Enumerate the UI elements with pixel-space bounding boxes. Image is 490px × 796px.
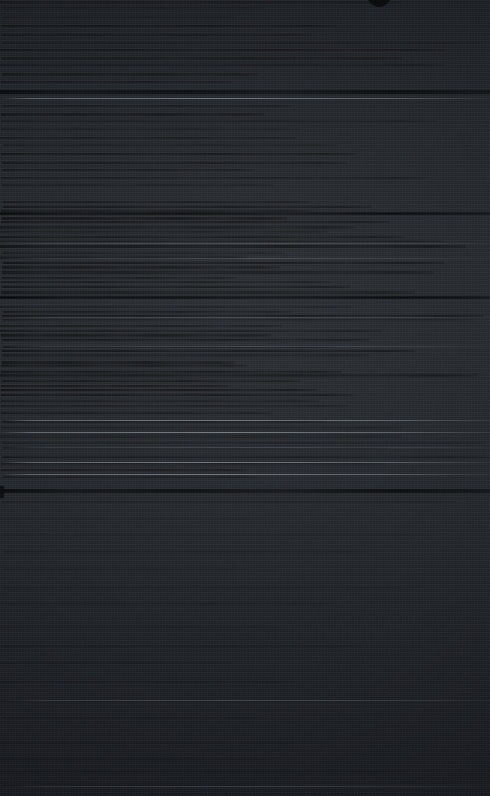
divider-rule-block-e <box>0 474 490 475</box>
divider-rule-block-a <box>0 420 490 421</box>
divider-rule-mid-a <box>0 243 490 244</box>
divider-rule-mid-d <box>0 346 490 347</box>
divider-rule-mid-b <box>0 258 490 259</box>
separator-separator-header <box>0 90 490 94</box>
divider-rule-block-d <box>0 462 490 463</box>
separator-separator-body <box>0 296 490 299</box>
divider-rule-top <box>0 98 490 99</box>
screen-background <box>0 0 490 796</box>
divider-rule-block-c <box>0 447 490 448</box>
left-edge-marker <box>0 486 4 498</box>
image-description: Near-black dark-theme mobile screen, sev… <box>0 0 84 1</box>
divider-rule-footer <box>0 786 490 787</box>
divider-rule-mid-c <box>0 317 490 318</box>
divider-rule-block-b <box>0 432 490 433</box>
phone-screenshot-root: Near-black dark-theme mobile screen, sev… <box>0 0 490 796</box>
separator-separator-main <box>0 489 490 493</box>
divider-rule-lower <box>0 700 490 701</box>
separator-separator-mid <box>0 212 490 215</box>
